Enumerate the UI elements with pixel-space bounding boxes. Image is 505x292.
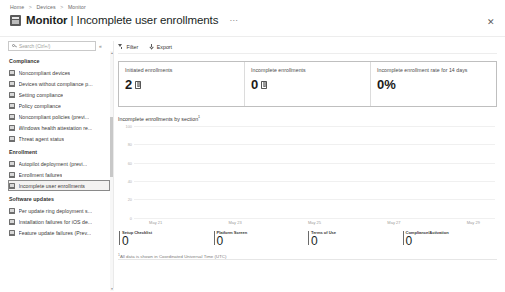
- sidebar-item-label: Autopilot deployment (previ...: [19, 161, 88, 167]
- kpi-value-row: 2: [125, 78, 238, 91]
- legend-value: 0: [406, 235, 498, 247]
- export-label: Export: [157, 44, 172, 50]
- legend-color-swatch: [214, 231, 215, 245]
- sidebar: Search (Ctrl+/) « Compliance Noncomplian…: [8, 41, 110, 288]
- command-bar: Filter Export: [118, 41, 497, 52]
- chart-gridline: [134, 144, 495, 145]
- device-icon: [135, 81, 141, 89]
- chart-x-tick-label: May 21: [149, 220, 162, 225]
- monitor-icon: [10, 15, 21, 26]
- panel-divider: [113, 41, 114, 288]
- sidebar-item-per-update-ring-deployment[interactable]: Per update ring deployment s...: [8, 205, 110, 216]
- chart-panel: Incomplete enrollments by section1 10080…: [118, 115, 497, 260]
- report-icon: [9, 103, 15, 109]
- legend-item-platform-screen[interactable]: Platform Screen 0: [214, 230, 309, 247]
- search-placeholder: Search (Ctrl+/): [19, 44, 50, 49]
- chart-x-tick-label: May 27: [387, 220, 400, 225]
- sidebar-item-enrollment-failures[interactable]: Enrollment failures: [8, 169, 110, 180]
- chart-title-footnote-marker: 1: [198, 115, 200, 119]
- sidebar-item-label: Setting compliance: [19, 92, 64, 98]
- sidebar-item-policy-compliance[interactable]: Policy compliance: [8, 100, 110, 111]
- chart-x-tick-label: May 29: [467, 220, 480, 225]
- sidebar-group-enrollment: Enrollment: [9, 149, 110, 155]
- sidebar-item-label: Devices without compliance p...: [19, 81, 93, 87]
- kpi-value: 0: [251, 78, 258, 91]
- kpi-card-incomplete-enrollments: Incomplete enrollments 0: [244, 62, 370, 106]
- sidebar-item-windows-health-attestation[interactable]: Windows health attestation re...: [8, 122, 110, 133]
- export-button[interactable]: Export: [148, 44, 172, 50]
- chart-gridline: [134, 199, 495, 200]
- search-input[interactable]: Search (Ctrl+/): [8, 41, 96, 51]
- footnote-text: All data is shown in Coordinated Univers…: [120, 254, 227, 259]
- report-icon: [9, 208, 15, 214]
- chart-title: Incomplete enrollments by section1: [118, 115, 497, 122]
- chart-gridline: [134, 218, 495, 219]
- more-options-icon[interactable]: …: [229, 14, 238, 26]
- collapse-sidebar-icon[interactable]: «: [99, 44, 102, 49]
- sidebar-item-setting-compliance[interactable]: Setting compliance: [8, 89, 110, 100]
- sidebar-item-devices-without-compliance-policy[interactable]: Devices without compliance p...: [8, 78, 110, 89]
- sidebar-item-noncompliant-policies[interactable]: Noncompliant policies (previ...: [8, 111, 110, 122]
- chart-legend: Setup Checklist 0 Platform Screen 0 Term…: [119, 230, 497, 247]
- report-icon: [9, 125, 15, 131]
- sidebar-item-label: Enrollment failures: [19, 172, 63, 178]
- command-bar-divider: [118, 53, 497, 54]
- sidebar-group-compliance: Compliance: [9, 58, 110, 64]
- sidebar-group-software-updates: Software updates: [9, 196, 110, 202]
- sidebar-item-label: Incomplete user enrollments: [19, 183, 86, 189]
- report-icon: [9, 230, 15, 236]
- sidebar-item-autopilot-deployment[interactable]: Autopilot deployment (previ...: [8, 158, 110, 169]
- legend-value: 0: [217, 235, 309, 247]
- sidebar-item-label: Noncompliant devices: [19, 70, 71, 76]
- report-icon: [9, 92, 15, 98]
- chart-x-tick-label: May 23: [229, 220, 242, 225]
- breadcrumb: Home > Devices > Monitor: [10, 4, 86, 10]
- sidebar-item-label: Feature update failures (Prev...: [19, 230, 92, 236]
- kpi-card-incomplete-enrollment-rate: Incomplete enrollment rate for 14 days 0…: [370, 62, 496, 106]
- sidebar-item-label: Noncompliant policies (previ...: [19, 114, 90, 120]
- close-icon[interactable]: ✕: [485, 17, 496, 28]
- chart-plot-area: 100806040200May 21May 23May 25May 27May …: [134, 126, 495, 219]
- breadcrumb-item-monitor[interactable]: Monitor: [68, 4, 86, 10]
- legend-color-swatch: [119, 231, 120, 245]
- legend-item-compliance-activation[interactable]: Compliance/Activation 0: [403, 230, 498, 247]
- chart-y-tick-label: 20: [128, 197, 132, 202]
- kpi-card-group: Initiated enrollments 2 Incomplete enrol…: [118, 61, 497, 107]
- device-icon: [261, 81, 267, 89]
- sidebar-item-incomplete-user-enrollments[interactable]: Incomplete user enrollments: [8, 180, 110, 191]
- legend-color-swatch: [403, 231, 404, 245]
- chart-title-text: Incomplete enrollments by section: [118, 116, 198, 122]
- kpi-value: 2: [125, 78, 132, 91]
- kpi-card-initiated-enrollments: Initiated enrollments 2: [119, 62, 244, 106]
- sidebar-item-threat-agent-status[interactable]: Threat agent status: [8, 133, 110, 144]
- sidebar-item-installation-failures-ios[interactable]: Installation failures for iOS de...: [8, 216, 110, 227]
- sidebar-item-noncompliant-devices[interactable]: Noncompliant devices: [8, 67, 110, 78]
- chart-y-tick-label: 40: [128, 178, 132, 183]
- breadcrumb-item-devices[interactable]: Devices: [36, 4, 55, 10]
- export-icon: [148, 44, 154, 50]
- kpi-value: 0%: [377, 78, 396, 91]
- filter-icon: [118, 44, 124, 50]
- kpi-title: Incomplete enrollments: [251, 67, 364, 74]
- page-title-separator: |: [71, 14, 74, 26]
- filter-button[interactable]: Filter: [118, 44, 138, 50]
- legend-value: 0: [311, 235, 403, 247]
- kpi-title: Incomplete enrollment rate for 14 days: [377, 67, 490, 74]
- chart-y-tick-label: 60: [128, 160, 132, 165]
- breadcrumb-separator: >: [60, 4, 63, 10]
- kpi-title: Initiated enrollments: [125, 67, 238, 74]
- legend-color-swatch: [308, 231, 309, 245]
- sidebar-item-label: Windows health attestation re...: [19, 125, 93, 131]
- kpi-value-row: 0: [251, 78, 364, 91]
- legend-item-terms-of-use[interactable]: Terms of Use 0: [308, 230, 403, 247]
- kpi-value-row: 0%: [377, 78, 490, 91]
- legend-item-setup-checklist[interactable]: Setup Checklist 0: [119, 230, 214, 247]
- report-icon: [9, 81, 15, 87]
- breadcrumb-item-home[interactable]: Home: [10, 4, 24, 10]
- breadcrumb-separator: >: [29, 4, 32, 10]
- report-icon: [9, 161, 15, 167]
- sidebar-item-feature-update-failures[interactable]: Feature update failures (Prev...: [8, 227, 110, 238]
- header-divider: [0, 36, 505, 37]
- legend-value: 0: [122, 235, 214, 247]
- report-icon: [9, 219, 15, 225]
